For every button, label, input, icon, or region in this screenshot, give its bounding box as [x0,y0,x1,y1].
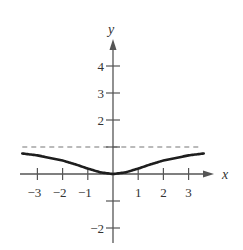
x-tick-label: 1 [135,185,142,200]
x-tick-label: −1 [78,185,92,200]
y-axis-label: y [106,22,115,37]
y-tick-label: 2 [98,113,105,128]
x-tick-label: 3 [185,185,192,200]
x-axis-arrow-icon [203,171,214,178]
axes [20,39,214,243]
x-axis-label: x [221,167,229,182]
y-tick-label: −2 [90,221,104,236]
x-tick-label: 2 [160,185,167,200]
x-tick-label: −3 [27,185,41,200]
y-tick-label: 3 [98,86,105,101]
x-tick-label: −2 [53,185,67,200]
y-axis-arrow-icon [110,39,117,50]
chart: −3−2−1123−2234 x y [0,0,243,250]
y-tick-label: 4 [98,59,105,74]
